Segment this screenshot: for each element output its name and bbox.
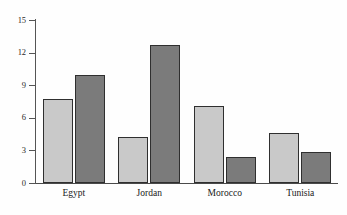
x-axis-label-egypt: Egypt <box>36 188 112 199</box>
bar-egypt-light-series <box>43 99 73 183</box>
y-tick-label-text: 15 <box>4 16 26 25</box>
y-tick-label-9: 9 <box>0 81 26 90</box>
y-tick-mark-12 <box>29 53 36 54</box>
bar-jordan-light-series <box>118 137 148 183</box>
y-tick-label-text: 3 <box>4 146 26 155</box>
y-tick-label-12: 12 <box>0 48 26 57</box>
bar-chart: 03691215 EgyptJordanMoroccoTunisia <box>0 0 347 215</box>
bars-layer <box>36 18 338 183</box>
bar-jordan-dark-series <box>150 45 180 183</box>
y-tick-label-0: 0 <box>0 179 26 188</box>
y-tick-label-text: 6 <box>4 113 26 122</box>
x-axis-label-morocco: Morocco <box>187 188 263 199</box>
y-tick-mark-0 <box>29 183 36 184</box>
x-axis-label-tunisia: Tunisia <box>263 188 339 199</box>
x-axis-label-jordan: Jordan <box>112 188 188 199</box>
y-tick-label-text: 12 <box>4 48 26 57</box>
bar-tunisia-light-series <box>269 133 299 183</box>
y-tick-mark-9 <box>29 85 36 86</box>
y-tick-label-3: 3 <box>0 146 26 155</box>
bar-morocco-dark-series <box>226 157 256 183</box>
y-tick-mark-3 <box>29 150 36 151</box>
y-tick-label-6: 6 <box>0 113 26 122</box>
bar-tunisia-dark-series <box>301 152 331 183</box>
y-tick-mark-15 <box>29 20 36 21</box>
y-tick-label-text: 9 <box>4 81 26 90</box>
y-tick-label-text: 0 <box>4 179 26 188</box>
y-tick-label-15: 15 <box>0 16 26 25</box>
bar-egypt-dark-series <box>75 75 105 183</box>
x-axis-line <box>35 183 338 184</box>
bar-morocco-light-series <box>194 106 224 183</box>
y-tick-mark-6 <box>29 118 36 119</box>
